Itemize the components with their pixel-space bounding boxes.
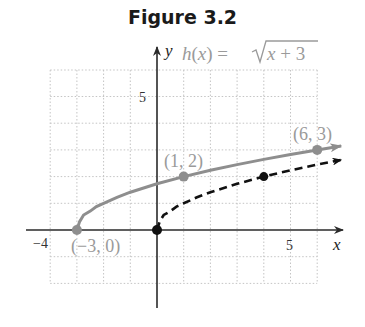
plot-area: y x −4 5 5 h(x) = x + 3 (−3, 0) (1, 2) (… <box>0 0 365 327</box>
y-tick-label-5: 5 <box>139 90 146 105</box>
svg-text:x + 3: x + 3 <box>266 43 305 64</box>
point-origin <box>152 225 162 235</box>
x-tick-label-5: 5 <box>286 238 293 253</box>
transformed-curve-h <box>77 146 341 230</box>
x-axis-label: x <box>332 235 341 254</box>
annotation-6-3: (6, 3) <box>293 124 332 145</box>
annotation-neg3-0: (−3, 0) <box>71 236 120 257</box>
point-6-3 <box>312 145 322 155</box>
function-label: h(x) = x + 3 <box>182 41 318 65</box>
svg-text:h(x) =: h(x) = <box>182 43 228 65</box>
point-1-2 <box>179 172 189 182</box>
annotation-1-2: (1, 2) <box>164 151 203 172</box>
y-axis-label: y <box>163 41 173 60</box>
point-4-2 <box>259 172 268 181</box>
point-neg3-0 <box>72 225 82 235</box>
x-tick-label-neg4: −4 <box>33 236 48 251</box>
